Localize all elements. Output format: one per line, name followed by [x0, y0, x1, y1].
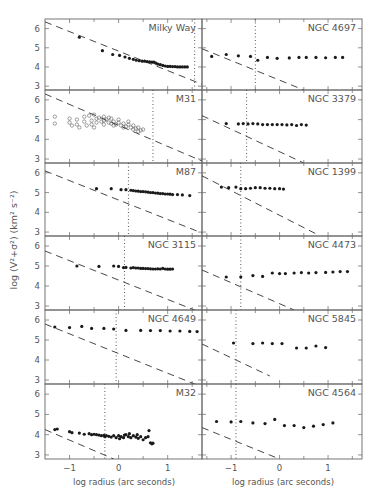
data-point: [290, 123, 293, 126]
data-point: [85, 124, 88, 127]
data-point: [249, 187, 252, 190]
data-point: [78, 431, 81, 434]
data-point: [346, 270, 349, 273]
data-point: [70, 124, 73, 127]
data-point: [288, 56, 291, 59]
data-point: [334, 56, 337, 59]
panel-title: NGC 4697: [308, 22, 356, 33]
data-point: [135, 59, 138, 62]
y-tick-label: 3: [35, 227, 40, 237]
x-tick-label: 1: [325, 463, 330, 473]
data-point: [102, 123, 105, 126]
data-point: [312, 425, 315, 428]
data-point: [232, 341, 235, 344]
data-point: [139, 435, 142, 438]
data-point: [263, 187, 266, 190]
data-point: [302, 426, 305, 429]
x-tick-label: 0: [277, 463, 282, 473]
data-point: [293, 424, 296, 427]
data-point: [273, 418, 276, 421]
data-point: [295, 346, 298, 349]
data-point: [68, 326, 71, 329]
panel-title: NGC 4649: [148, 313, 196, 324]
data-point: [97, 265, 100, 268]
data-point: [278, 272, 281, 275]
data-point: [132, 58, 135, 61]
data-point: [261, 341, 264, 344]
data-point: [278, 187, 281, 190]
data-point: [90, 123, 93, 126]
data-point: [283, 424, 286, 427]
data-point: [138, 59, 141, 62]
data-point: [271, 342, 274, 345]
y-tick-label: 4: [35, 62, 40, 72]
data-point: [261, 275, 264, 278]
model-dashed-line: [45, 251, 202, 313]
data-point: [75, 264, 78, 267]
data-point: [282, 187, 285, 190]
data-point: [68, 117, 71, 120]
data-point: [112, 434, 115, 437]
data-point: [314, 271, 317, 274]
data-point: [271, 123, 274, 126]
data-point: [293, 271, 296, 274]
data-point: [256, 59, 259, 62]
model-dashed-line: [45, 171, 202, 233]
data-point: [284, 272, 287, 275]
data-point: [251, 274, 254, 277]
data-point: [129, 436, 132, 439]
data-point: [276, 57, 279, 60]
data-point: [229, 420, 232, 423]
data-point: [118, 54, 121, 57]
data-point: [53, 115, 56, 118]
data-point: [112, 264, 115, 267]
data-point: [273, 187, 276, 190]
data-point: [324, 346, 327, 349]
y-tick-label: 5: [35, 261, 40, 271]
data-point: [237, 54, 240, 57]
data-point: [75, 118, 78, 121]
panel-title: Milky Way: [148, 22, 196, 33]
data-point: [83, 120, 86, 123]
data-point: [122, 122, 125, 125]
y-tick-label: 6: [35, 95, 40, 105]
y-tick-label: 5: [35, 335, 40, 345]
panel-grid: 3456Milky Way3456M313456M873456NGC 31153…: [35, 19, 362, 473]
data-point: [341, 56, 344, 59]
y-tick-label: 3: [35, 81, 40, 91]
panel-title: NGC 4473: [308, 239, 356, 250]
data-point: [123, 55, 126, 58]
data-point: [124, 266, 127, 269]
data-point: [239, 420, 242, 423]
y-tick-label: 3: [35, 375, 40, 385]
panel-ngc-3115: 3456NGC 3115: [35, 236, 202, 313]
data-point: [70, 431, 73, 434]
data-point: [297, 56, 300, 59]
data-point: [169, 329, 172, 332]
data-point: [280, 342, 283, 345]
data-point: [251, 421, 254, 424]
data-point: [78, 126, 81, 129]
data-point: [244, 187, 247, 190]
data-point: [139, 329, 142, 332]
y-tick-label: 4: [35, 134, 40, 144]
data-point: [111, 53, 114, 56]
data-point: [195, 330, 198, 333]
data-point: [324, 271, 327, 274]
model-dashed-line: [202, 49, 304, 90]
panel-title: M32: [176, 387, 196, 398]
data-point: [266, 56, 269, 59]
data-point: [276, 123, 279, 126]
data-point: [124, 433, 127, 436]
data-point: [102, 115, 105, 118]
data-point: [117, 265, 120, 268]
data-point: [136, 433, 139, 436]
y-tick-label: 5: [35, 43, 40, 53]
data-point: [56, 427, 59, 430]
data-point: [280, 123, 283, 126]
data-point: [146, 435, 149, 438]
data-point: [188, 330, 191, 333]
data-point: [331, 270, 334, 273]
data-point: [314, 56, 317, 59]
x-tick-label: 0: [116, 463, 121, 473]
